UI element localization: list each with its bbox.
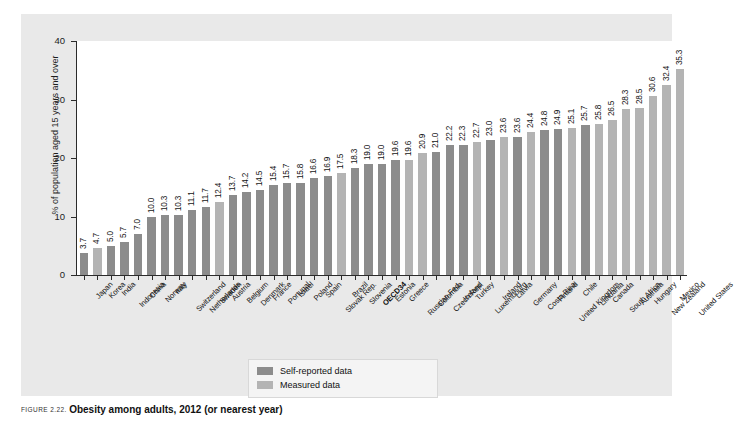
- bar-group: 10.3: [174, 41, 182, 275]
- bar: [500, 137, 508, 275]
- legend-label: Measured data: [280, 380, 340, 390]
- bar: [337, 173, 345, 275]
- bar-group: 16.6: [310, 41, 318, 275]
- bar-group: 25.7: [581, 41, 589, 275]
- figure-title: Obesity among adults, 2012 (or nearest y…: [69, 404, 282, 415]
- bar-group: 14.2: [242, 41, 250, 275]
- figure-caption: FIGURE 2.22. Obesity among adults, 2012 …: [21, 404, 672, 418]
- bar-value-label: 10.3: [174, 196, 183, 211]
- chart-legend: Self-reported data Measured data: [248, 359, 438, 398]
- bar: [310, 178, 318, 275]
- bar-group: 4.7: [93, 41, 101, 275]
- bar-group: 28.3: [622, 41, 630, 275]
- bar-value-label: 25.8: [594, 105, 603, 120]
- bar-value-label: 3.7: [79, 239, 88, 250]
- bar-value-label: 5.0: [106, 231, 115, 242]
- bar-group: 5.0: [107, 41, 115, 275]
- bar: [283, 183, 291, 275]
- bar-value-label: 20.9: [418, 134, 427, 149]
- bar-value-label: 16.9: [323, 157, 332, 172]
- y-axis-tick-label: 0: [43, 269, 65, 280]
- bar-group: 10.3: [161, 41, 169, 275]
- category-labels: JapanKoreaIndiaIndonesiaChinaNorwayItaly…: [77, 280, 687, 342]
- figure-number: FIGURE 2.22.: [21, 406, 67, 413]
- bar-value-label: 14.5: [255, 171, 264, 186]
- bar: [568, 128, 576, 275]
- bar-group: 12.4: [215, 41, 223, 275]
- category-label: Chile: [581, 280, 599, 298]
- bar: [527, 132, 535, 275]
- bar-value-label: 5.7: [119, 227, 128, 238]
- bar-group: 24.8: [540, 41, 548, 275]
- bar-value-label: 35.3: [675, 49, 684, 64]
- bar: [215, 202, 223, 275]
- bar-group: 25.1: [568, 41, 576, 275]
- bar-group: 23.6: [500, 41, 508, 275]
- legend-item-self-reported: Self-reported data: [257, 364, 429, 378]
- bar-value-label: 7.0: [133, 219, 142, 230]
- bar-value-label: 13.7: [228, 176, 237, 191]
- bar-group: 19.0: [364, 41, 372, 275]
- bar-group: 21.0: [432, 41, 440, 275]
- bar-value-label: 21.0: [431, 133, 440, 148]
- bar-group: 3.7: [80, 41, 88, 275]
- bar-value-label: 15.7: [282, 164, 291, 179]
- bar: [324, 176, 332, 275]
- bar-value-label: 10.3: [160, 196, 169, 211]
- bar-value-label: 32.4: [662, 66, 671, 81]
- bar-value-label: 19.6: [391, 141, 400, 156]
- y-axis-tick: [71, 275, 77, 276]
- bar-group: 26.5: [608, 41, 616, 275]
- bar-value-label: 22.2: [445, 126, 454, 141]
- bar: [676, 69, 684, 276]
- bar-value-label: 23.6: [513, 118, 522, 133]
- bar: [662, 85, 670, 275]
- legend-swatch-icon: [257, 381, 273, 389]
- bar-value-label: 24.8: [540, 111, 549, 126]
- bar: [161, 215, 169, 275]
- legend-item-measured: Measured data: [257, 378, 429, 392]
- bar-value-label: 24.9: [553, 110, 562, 125]
- bar: [174, 215, 182, 275]
- bar: [202, 207, 210, 275]
- bar-value-label: 19.6: [404, 141, 413, 156]
- bar-value-label: 23.6: [499, 118, 508, 133]
- bar-group: 15.7: [283, 41, 291, 275]
- bar: [622, 109, 630, 275]
- chart-panel: 010203040 % of population aged 15 years …: [21, 14, 672, 396]
- bar: [486, 140, 494, 275]
- bar: [513, 137, 521, 275]
- bar-group: 23.0: [486, 41, 494, 275]
- bar-value-label: 26.5: [607, 101, 616, 116]
- bar-value-label: 4.7: [92, 233, 101, 244]
- bar: [432, 152, 440, 275]
- bar-group: 24.4: [527, 41, 535, 275]
- bar-value-label: 19.0: [363, 145, 372, 160]
- bar-value-label: 25.7: [580, 106, 589, 121]
- bar-group: 11.7: [202, 41, 210, 275]
- bar-value-label: 18.3: [350, 149, 359, 164]
- bar: [256, 190, 264, 275]
- bar-group: 7.0: [134, 41, 142, 275]
- bar-group: 35.3: [676, 41, 684, 275]
- bar-value-label: 16.6: [309, 159, 318, 174]
- bar-group: 16.9: [324, 41, 332, 275]
- bar: [635, 108, 643, 275]
- bar-group: 15.4: [269, 41, 277, 275]
- bar-value-label: 12.4: [214, 183, 223, 198]
- bar-group: 17.5: [337, 41, 345, 275]
- bar: [147, 217, 155, 276]
- bar-group: 19.6: [405, 41, 413, 275]
- bar-group: 20.9: [418, 41, 426, 275]
- bar-value-label: 22.3: [458, 125, 467, 140]
- bar-group: 19.6: [391, 41, 399, 275]
- bar-value-label: 25.1: [567, 109, 576, 124]
- bar-group: 13.7: [229, 41, 237, 275]
- bar: [188, 210, 196, 275]
- bar: [134, 234, 142, 275]
- bar-group: 23.6: [513, 41, 521, 275]
- bar-group: 32.4: [662, 41, 670, 275]
- bar-group: 28.5: [635, 41, 643, 275]
- bar-group: 11.1: [188, 41, 196, 275]
- bar-value-label: 19.0: [377, 145, 386, 160]
